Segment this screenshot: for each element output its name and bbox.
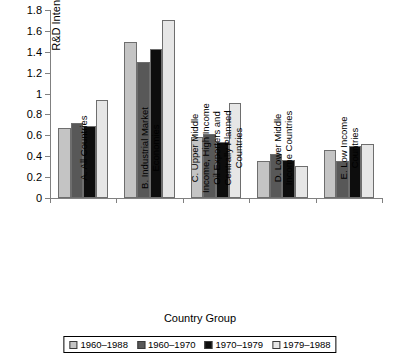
x-axis-group-label: B. Industrial Market Economies — [139, 96, 161, 200]
y-axis-tick-label: 0 — [36, 192, 42, 204]
legend-label: 1960–1970 — [148, 339, 196, 350]
y-axis-tick-label: 1.8 — [27, 4, 42, 16]
y-axis-tick-label: 0.6 — [27, 129, 42, 141]
legend-label: 1979–1988 — [283, 339, 331, 350]
x-axis-group-label: A. All Countries — [78, 96, 89, 200]
y-axis-tick — [45, 31, 50, 32]
y-axis-tick-label: 0.8 — [27, 108, 42, 120]
y-axis-tick-label: 1.6 — [27, 25, 42, 37]
rd-intensity-bar-chart: R&D Intensity (%) 00.20.40.60.811.21.41.… — [0, 0, 400, 363]
legend-item: 1970–1979 — [205, 339, 264, 350]
y-axis-tick — [45, 73, 50, 74]
x-axis-group-label-wrap: C. Upper Middle Income, High Income Oil … — [183, 200, 249, 304]
y-axis-tick — [45, 135, 50, 136]
x-axis-group-label: C. Upper Middle Income, High Income Oil … — [189, 96, 244, 200]
y-axis-title-container: R&D Intensity (%) — [4, 0, 18, 200]
x-axis-title: Country Group — [0, 312, 400, 324]
y-axis-tick — [45, 52, 50, 53]
x-axis-group-label: D. Lower Middle Income Countries — [272, 96, 294, 200]
legend-label: 1960–1988 — [80, 339, 128, 350]
y-axis-tick-label: 1 — [36, 88, 42, 100]
y-axis-tick — [45, 10, 50, 11]
bar — [124, 42, 137, 198]
y-axis-tick-label: 0.2 — [27, 171, 42, 183]
legend-swatch — [137, 341, 145, 349]
x-axis-tick — [382, 198, 383, 203]
y-axis-tick — [45, 114, 50, 115]
x-axis-group-label: E. Low Income Countries — [338, 96, 360, 200]
bar — [58, 128, 71, 198]
y-axis-line — [50, 10, 51, 198]
bar — [96, 100, 109, 198]
x-axis-group-label-wrap: A. All Countries — [50, 200, 116, 304]
legend-item: 1960–1988 — [69, 339, 128, 350]
legend-swatch — [272, 341, 280, 349]
bar — [324, 150, 337, 198]
bar — [361, 144, 374, 198]
x-axis-group-label-wrap: B. Industrial Market Economies — [116, 200, 182, 304]
legend-swatch — [69, 341, 77, 349]
legend-item: 1979–1988 — [272, 339, 331, 350]
legend-label: 1970–1979 — [216, 339, 264, 350]
y-axis-tick-label: 1.2 — [27, 67, 42, 79]
legend-swatch — [205, 341, 213, 349]
bar — [257, 161, 270, 198]
y-axis-tick-label: 0.4 — [27, 150, 42, 162]
legend-item: 1960–1970 — [137, 339, 196, 350]
y-axis-tick-label: 1.4 — [27, 46, 42, 58]
bar — [295, 166, 308, 198]
y-axis-tick — [45, 156, 50, 157]
y-axis-tick — [45, 94, 50, 95]
x-axis-group-label-wrap: E. Low Income Countries — [316, 200, 382, 304]
chart-legend: 1960–19881960–19701970–19791979–1988 — [63, 336, 336, 353]
bar — [162, 20, 175, 198]
y-axis-tick — [45, 177, 50, 178]
x-axis-group-label-wrap: D. Lower Middle Income Countries — [249, 200, 315, 304]
